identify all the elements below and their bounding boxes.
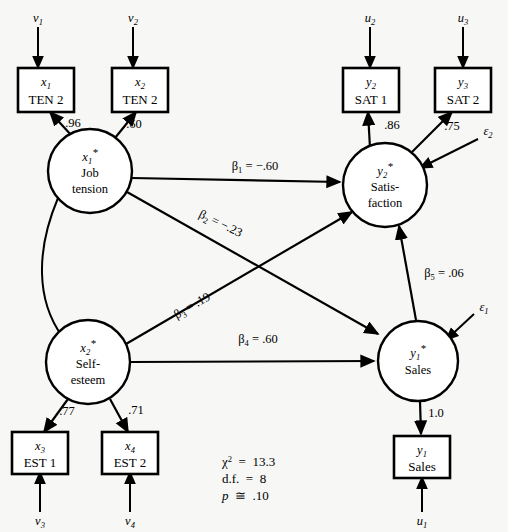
latent-label-sales-line1: Sales [405, 363, 432, 377]
beta1-value: −.60 [256, 159, 279, 173]
latent-label-self-esteem-line1: Self- [76, 357, 100, 371]
fit-chi-square-value: 13.3 [252, 454, 275, 469]
fit-df-symbol: d.f. [222, 471, 239, 486]
loading-label-x4: .71 [128, 403, 144, 417]
loading-arrow-x4 [110, 399, 128, 432]
beta2-value: −.23 [218, 217, 245, 240]
loading-label-x1: .96 [65, 116, 81, 130]
loading-arrow-y1 [420, 401, 421, 434]
beta2-path [127, 192, 378, 334]
fit-p-value: p ≅ .10 [221, 488, 269, 503]
latent-label-job-tension-line1: Job [81, 166, 98, 180]
beta3-label: β3 = .19 [171, 290, 213, 324]
disturbance-label-e2: ε2 [483, 124, 493, 140]
fit-chi-square: χ2 = 13.3 [221, 454, 275, 469]
latent-label-satisfaction-line1: Satis- [371, 180, 399, 194]
observed-label-y2-name: SAT 1 [355, 92, 388, 107]
beta4-path [130, 361, 374, 362]
beta1-label: β1 = −.60 [232, 159, 279, 175]
loading-label-x3: .77 [59, 404, 75, 418]
residual-label-u3: u3 [458, 11, 469, 27]
residual-label-v1: v1 [33, 11, 43, 27]
beta5-value: .06 [448, 266, 464, 280]
beta4-value: .60 [262, 332, 278, 346]
observed-label-x4-name: EST 2 [114, 455, 147, 470]
loading-arrow-y2 [368, 112, 370, 148]
observed-label-y3-name: SAT 2 [447, 92, 480, 107]
latent-label-job-tension-line2: tension [72, 182, 109, 196]
path-diagram-figure: x1 TEN 2 x2 TEN 2 y2 SAT 1 y3 SAT 2 x3 E… [0, 0, 508, 532]
beta5-path [399, 226, 416, 320]
observed-label-y1-name: Sales [408, 459, 435, 474]
latent-label-satisfaction-line2: faction [368, 196, 403, 210]
latent-label-self-esteem-line2: esteem [71, 373, 106, 387]
residual-label-u1: u1 [417, 514, 428, 530]
observed-label-x2-name: TEN 2 [122, 92, 157, 107]
diagram-canvas: x1 TEN 2 x2 TEN 2 y2 SAT 1 y3 SAT 2 x3 E… [0, 0, 508, 532]
loading-label-y3: .75 [444, 119, 460, 133]
loading-label-y2: .86 [384, 118, 400, 132]
beta2-label: β2 = −.23 [196, 207, 245, 242]
loading-label-y1: 1.0 [428, 406, 444, 420]
residual-label-v4: v4 [125, 514, 136, 530]
residual-label-u2: u2 [365, 11, 376, 27]
fit-p-number: .10 [253, 488, 269, 503]
beta1-path [132, 178, 340, 182]
fit-statistics: χ2 = 13.3 d.f. = 8 p ≅ .10 [221, 454, 275, 503]
fit-degrees-of-freedom: d.f. = 8 [222, 471, 266, 486]
beta5-label: β5 = .06 [424, 266, 464, 282]
observed-label-x3-name: EST 1 [24, 455, 57, 470]
correlation-arc-job-tension-self-esteem [42, 198, 62, 336]
residual-label-v3: v3 [35, 514, 45, 530]
beta4-label: β4 = .60 [238, 332, 278, 348]
residual-label-v2: v2 [128, 11, 139, 27]
disturbance-label-e1: ε1 [479, 300, 488, 316]
observed-label-x1-name: TEN 2 [28, 92, 63, 107]
fit-df-value: 8 [260, 471, 267, 486]
loading-label-x2: .60 [126, 117, 142, 131]
disturbance-arrow-e2 [420, 139, 478, 168]
